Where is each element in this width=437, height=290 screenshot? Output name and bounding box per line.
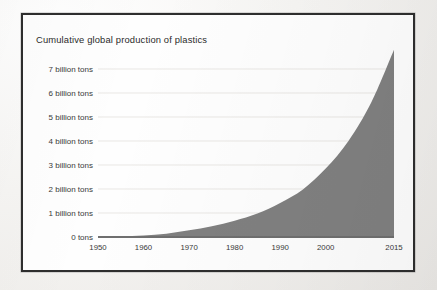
chart-title: Cumulative global production of plastics	[36, 34, 207, 45]
x-tick-label-1990: 1990	[272, 243, 289, 252]
y-tick-label-6: 6 billion tons	[49, 89, 93, 98]
y-tick-label-1: 1 billion tons	[49, 209, 93, 218]
y-tick-label-2: 2 billion tons	[49, 185, 93, 194]
y-tick-label-3: 3 billion tons	[49, 161, 93, 170]
area-chart-svg	[98, 45, 394, 237]
y-tick-label-7: 7 billion tons	[49, 65, 93, 74]
zero-axis-line	[98, 236, 394, 238]
x-tick-label-2000: 2000	[317, 243, 334, 252]
x-axis-tick-labels: 1950196019701980199020002015	[98, 243, 394, 257]
chart-card: Cumulative global production of plastics…	[23, 15, 413, 270]
y-tick-label-5: 5 billion tons	[49, 113, 93, 122]
figure-frame: Cumulative global production of plastics…	[21, 13, 415, 272]
area-series-plastics	[98, 50, 394, 237]
x-tick-label-1980: 1980	[226, 243, 243, 252]
scanned-page-background: Cumulative global production of plastics…	[0, 0, 437, 290]
y-tick-label-4: 4 billion tons	[49, 137, 93, 146]
x-tick-label-1970: 1970	[180, 243, 197, 252]
x-tick-label-1960: 1960	[135, 243, 152, 252]
x-tick-label-2015: 2015	[385, 243, 402, 252]
x-tick-label-1950: 1950	[89, 243, 106, 252]
y-tick-label-0: 0 tons	[71, 233, 93, 242]
plot-area	[98, 45, 394, 237]
y-axis-tick-labels: 0 tons1 billion tons2 billion tons3 bill…	[31, 45, 93, 237]
